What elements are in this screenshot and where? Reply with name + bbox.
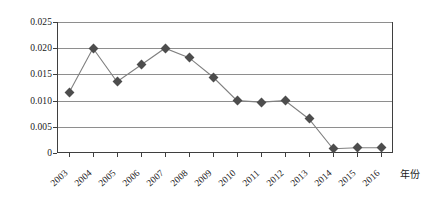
data-point-marker	[184, 53, 194, 63]
data-point-marker	[64, 88, 74, 98]
data-point-marker	[88, 43, 98, 53]
data-point-marker	[304, 114, 314, 124]
data-point-marker	[160, 43, 170, 53]
data-point-marker	[280, 96, 290, 106]
line-chart-figure: 00.0050.0100.0150.0200.025 2003200420052…	[0, 0, 442, 210]
data-markers-layer	[0, 0, 442, 210]
x-axis-title: 年份	[400, 166, 420, 181]
data-point-marker	[232, 96, 242, 106]
data-point-marker	[136, 60, 146, 70]
data-point-marker	[208, 72, 218, 82]
data-point-marker	[328, 144, 338, 154]
data-point-marker	[352, 143, 362, 153]
data-point-marker	[256, 97, 266, 107]
data-point-marker	[112, 77, 122, 87]
data-point-marker	[376, 143, 386, 153]
